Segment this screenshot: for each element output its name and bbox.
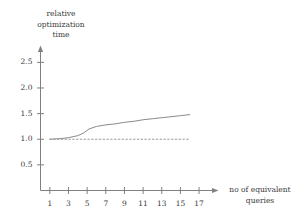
y-tick-label: 2.5 [11,57,33,66]
x-tick-label: 11 [136,199,150,208]
x-tick-label: 3 [61,199,75,208]
axis-ticks [37,62,199,194]
x-axis-arrow-icon [212,188,219,193]
x-tick-label: 9 [117,199,131,208]
y-tick-label: 1.0 [11,134,33,143]
y-tick-label: 0.5 [11,160,33,169]
x-tick-label: 1 [43,199,57,208]
y-tick-label: 1.5 [11,109,33,118]
y-axis-arrow-icon [38,46,43,53]
x-tick-label: 17 [192,199,206,208]
x-tick-label: 13 [155,199,169,208]
x-tick-label: 15 [173,199,187,208]
plot-area [0,0,302,220]
data-series [50,115,190,140]
curve-series [50,115,190,140]
x-tick-label: 7 [99,199,113,208]
axes [38,46,219,194]
x-tick-label: 5 [80,199,94,208]
y-tick-label: 2.0 [11,83,33,92]
chart-figure: relative optimization time no of equival… [0,0,302,220]
